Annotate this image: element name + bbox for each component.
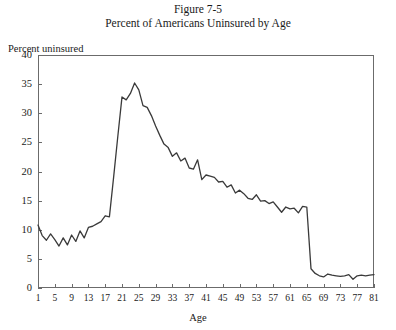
y-tick-label: 5 [8,254,32,264]
figure-title: Figure 7-5 Percent of Americans Uninsure… [0,2,396,30]
x-tick-label: 33 [168,293,178,303]
x-tick-label: 9 [69,293,74,303]
y-tick-label: 35 [8,79,32,89]
x-tick-mark [374,284,375,288]
x-tick-label: 5 [52,293,57,303]
x-tick-label: 65 [302,293,312,303]
x-axis-label: Age [0,312,396,323]
y-tick-label: 20 [8,167,32,177]
x-tick-label: 69 [319,293,329,303]
x-tick-label: 21 [117,293,127,303]
y-tick-label: 10 [8,225,32,235]
x-tick-label: 1 [36,293,41,303]
x-tick-label: 29 [151,293,161,303]
x-tick-label: 45 [218,293,228,303]
x-tick-label: 57 [268,293,278,303]
y-tick-label: 15 [8,196,32,206]
x-tick-label: 37 [184,293,194,303]
data-series-plot [38,55,374,288]
x-tick-label: 41 [201,293,211,303]
series-line-percent-uninsured [38,83,374,279]
x-tick-label: 25 [134,293,144,303]
y-tick-label: 25 [8,137,32,147]
x-tick-label: 17 [100,293,110,303]
y-tick-mark [38,288,42,289]
y-tick-label: 30 [8,108,32,118]
x-tick-label: 81 [369,293,379,303]
x-tick-label: 73 [336,293,346,303]
y-tick-label: 0 [8,283,32,293]
x-tick-label: 13 [84,293,94,303]
y-tick-label: 40 [8,50,32,60]
x-tick-label: 61 [285,293,295,303]
x-tick-label: 77 [352,293,362,303]
figure-number: Figure 7-5 [0,2,396,16]
x-tick-label: 53 [252,293,262,303]
figure-container: Figure 7-5 Percent of Americans Uninsure… [0,0,396,330]
figure-caption: Percent of Americans Uninsured by Age [0,16,396,30]
x-tick-label: 49 [235,293,245,303]
